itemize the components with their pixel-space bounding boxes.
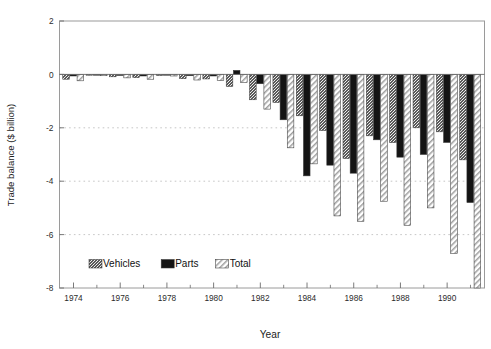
bar-total-1981 <box>241 74 248 82</box>
bar-parts-1987 <box>374 74 381 139</box>
bar-total-1979 <box>194 74 201 80</box>
bar-vehicles-1974 <box>63 74 70 79</box>
x-tick-label: 1976 <box>111 293 130 303</box>
bar-vehicles-1990 <box>436 74 443 131</box>
chart-figure: 20-2-4-6-8 19741976197819801982198419861… <box>0 0 491 349</box>
x-tick-label: 1982 <box>251 293 270 303</box>
y-tick-label: -2 <box>46 123 54 133</box>
y-tick-label: -8 <box>46 283 54 293</box>
bar-total-1991 <box>474 74 481 288</box>
legend-swatch-vehicles-icon <box>89 260 102 269</box>
bar-total-1990 <box>451 74 458 253</box>
x-tick-label: 1986 <box>344 293 363 303</box>
bar-parts-1989 <box>420 74 427 154</box>
bar-vehicles-1979 <box>180 74 187 78</box>
bar-vehicles-1991 <box>460 74 467 159</box>
x-tick-label: 1978 <box>158 293 177 303</box>
trade-balance-bar-chart: 20-2-4-6-8 19741976197819801982198419861… <box>0 0 491 349</box>
x-tick-label: 1974 <box>64 293 83 303</box>
bar-vehicles-1985 <box>320 74 327 130</box>
bar-parts-1983 <box>280 74 287 119</box>
legend-label: Vehicles <box>103 258 140 269</box>
x-tick-label: 1984 <box>298 293 317 303</box>
y-tick-label: -4 <box>46 176 54 186</box>
bar-parts-1985 <box>327 74 334 165</box>
bar-total-1980 <box>217 74 224 80</box>
bar-vehicles-1988 <box>390 74 397 142</box>
legend-label: Total <box>230 258 251 269</box>
bar-parts-1981 <box>233 70 240 74</box>
legend-label: Parts <box>175 258 198 269</box>
x-axis-title: Year <box>260 329 281 340</box>
bar-total-1987 <box>381 74 388 201</box>
bar-total-1977 <box>147 74 154 79</box>
bar-vehicles-1986 <box>343 74 350 158</box>
bar-total-1983 <box>287 74 294 147</box>
bar-total-1986 <box>357 74 364 221</box>
legend-swatch-parts-icon <box>161 260 174 269</box>
bar-parts-1991 <box>467 74 474 202</box>
y-tick-label: 2 <box>49 16 54 26</box>
chart-legend: VehiclesPartsTotal <box>89 258 251 269</box>
y-axis-title: Trade balance ($ billion) <box>5 104 16 207</box>
bar-parts-1982 <box>257 74 264 83</box>
bar-vehicles-1980 <box>203 74 210 79</box>
bar-total-1974 <box>77 74 84 80</box>
bar-vehicles-1982 <box>250 74 257 99</box>
x-tick-label: 1980 <box>204 293 223 303</box>
bar-vehicles-1989 <box>413 74 420 127</box>
x-tick-label: 1988 <box>391 293 410 303</box>
bar-vehicles-1981 <box>226 74 233 86</box>
bar-total-1984 <box>311 74 318 163</box>
bar-parts-1988 <box>397 74 404 157</box>
bar-total-1988 <box>404 74 411 225</box>
legend-item-vehicles: Vehicles <box>89 258 140 269</box>
bar-vehicles-1983 <box>273 74 280 102</box>
legend-swatch-total-icon <box>216 260 229 269</box>
bar-vehicles-1984 <box>296 74 303 115</box>
bar-parts-1990 <box>444 74 451 142</box>
y-tick-label: -6 <box>46 230 54 240</box>
bar-vehicles-1987 <box>366 74 373 135</box>
bar-total-1976 <box>124 74 131 77</box>
y-tick-label: 0 <box>49 70 54 80</box>
legend-item-total: Total <box>216 258 251 269</box>
x-tick-label: 1990 <box>438 293 457 303</box>
bar-parts-1984 <box>303 74 310 175</box>
bar-vehicles-1977 <box>133 74 140 77</box>
bar-total-1985 <box>334 74 341 216</box>
legend-item-parts: Parts <box>161 258 198 269</box>
bar-parts-1986 <box>350 74 357 173</box>
bar-total-1989 <box>427 74 434 208</box>
bar-total-1982 <box>264 74 271 109</box>
